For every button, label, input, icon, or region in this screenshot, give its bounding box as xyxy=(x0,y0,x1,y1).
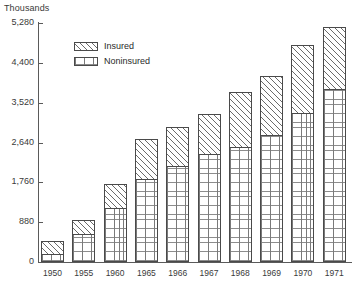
x-axis-tick-label: 1966 xyxy=(162,268,193,278)
bar-group xyxy=(104,184,127,262)
bar-group xyxy=(291,45,314,262)
bar-group xyxy=(323,27,346,262)
x-axis-tick-label: 1971 xyxy=(319,268,350,278)
x-axis-tick-label: 1955 xyxy=(68,268,99,278)
bar-segment-noninsured xyxy=(323,89,346,262)
bar-segment-insured xyxy=(198,114,221,154)
bar-segment-insured xyxy=(291,45,314,114)
x-axis-tick-label: 1969 xyxy=(256,268,287,278)
bars-layer: 1950195519601965196619671968196919701971 xyxy=(0,0,354,284)
bar-group xyxy=(72,220,95,262)
legend-item-insured: Insured xyxy=(74,40,150,52)
bar-segment-noninsured xyxy=(198,154,221,262)
legend-label-insured: Insured xyxy=(104,41,134,51)
bar-segment-noninsured xyxy=(72,234,95,262)
bar-group xyxy=(229,92,252,262)
bar-segment-noninsured xyxy=(166,166,189,262)
bar-segment-insured xyxy=(323,27,346,90)
x-axis-tick-label: 1968 xyxy=(225,268,256,278)
bar-segment-insured xyxy=(135,139,158,180)
bar-group xyxy=(260,76,283,262)
legend-label-noninsured: Noninsured xyxy=(104,56,150,66)
bar-chart: Thousands 08801,7602,6403,5204,4005,280 … xyxy=(0,0,354,284)
x-axis-tick-label: 1965 xyxy=(131,268,162,278)
bar-segment-insured xyxy=(72,220,95,235)
bar-segment-insured xyxy=(104,184,127,209)
bar-segment-noninsured xyxy=(291,113,314,262)
bar-segment-noninsured xyxy=(104,208,127,262)
bar-segment-insured xyxy=(41,241,64,255)
vertical-grid-swatch xyxy=(74,57,98,66)
bar-segment-noninsured xyxy=(229,147,252,262)
legend-item-noninsured: Noninsured xyxy=(74,55,150,67)
bar-segment-insured xyxy=(166,127,189,167)
chart-legend: Insured Noninsured xyxy=(74,40,150,70)
bar-segment-insured xyxy=(229,92,252,149)
x-axis-tick-label: 1967 xyxy=(194,268,225,278)
x-axis-tick-label: 1970 xyxy=(287,268,318,278)
bar-segment-noninsured xyxy=(41,254,64,262)
bar-group xyxy=(198,114,221,262)
bar-group xyxy=(41,241,64,262)
bar-segment-noninsured xyxy=(260,135,283,262)
x-axis-tick-label: 1950 xyxy=(37,268,68,278)
bar-segment-insured xyxy=(260,76,283,136)
bar-segment-noninsured xyxy=(135,179,158,262)
x-axis-tick-label: 1960 xyxy=(100,268,131,278)
bar-group xyxy=(135,139,158,262)
diagonal-hatch-swatch xyxy=(74,42,98,51)
bar-group xyxy=(166,127,189,262)
